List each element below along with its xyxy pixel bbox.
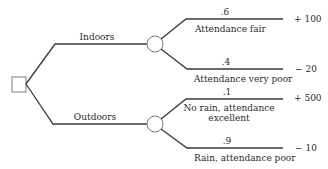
outcome-attendance-very-poor-probability: .4 [222, 57, 231, 67]
branch-outdoors-label: Outdoors [74, 112, 117, 122]
outcome-no-rain-label-line2: excellent [208, 113, 250, 123]
chance-node-outdoors [147, 116, 163, 132]
chance-node-indoors [147, 36, 163, 52]
outcome-no-rain-payoff: + 500 [294, 93, 322, 103]
outcome-attendance-fair-probability: .6 [221, 7, 230, 17]
outcome-attendance-fair-label: Attendance fair [194, 24, 266, 34]
outcome-rain-probability: .9 [223, 136, 232, 146]
branch-indoors: Indoors .6 Attendance fair + 100 .4 Atte… [26, 7, 322, 84]
decision-tree-diagram: Indoors .6 Attendance fair + 100 .4 Atte… [0, 0, 328, 169]
branch-outdoors: Outdoors .1 No rain, attendance excellen… [26, 84, 322, 163]
outcome-rain-label: Rain, attendance poor [194, 153, 296, 163]
outcome-attendance-very-poor-payoff: − 20 [295, 64, 317, 74]
branch-indoors-line [26, 44, 147, 84]
outcome-rain-payoff: − 10 [295, 143, 317, 153]
outcome-attendance-very-poor-label: Attendance very poor [193, 74, 293, 84]
decision-node-square [12, 77, 26, 92]
outcome-no-rain-label-line1: No rain, attendance [183, 103, 274, 113]
outcome-attendance-fair-payoff: + 100 [294, 14, 322, 24]
outcome-no-rain-probability: .1 [223, 87, 232, 97]
branch-indoors-label: Indoors [80, 32, 115, 42]
